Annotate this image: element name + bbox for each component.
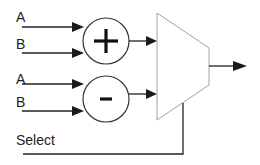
adder-input-b-wire xyxy=(22,48,84,58)
arrowhead-icon xyxy=(72,22,84,32)
arrowhead-icon xyxy=(146,36,157,46)
subtractor-block xyxy=(83,76,129,122)
adder-input-a-label: A xyxy=(16,9,26,25)
arrowhead-icon xyxy=(233,61,247,71)
adder-subtractor-mux-diagram: A B A B xyxy=(0,0,260,165)
arrowhead-icon xyxy=(72,106,84,116)
subtractor-output-wire xyxy=(129,89,157,99)
adder-input-a-wire xyxy=(22,22,84,32)
arrowhead-icon xyxy=(72,79,84,89)
subtractor-input-a-wire xyxy=(22,79,84,89)
mux-output-wire xyxy=(209,61,247,71)
adder-output-wire xyxy=(129,36,157,46)
arrowhead-icon xyxy=(146,89,157,99)
select-label: Select xyxy=(16,132,55,148)
subtractor-input-b-label: B xyxy=(16,94,25,110)
adder-block xyxy=(83,18,129,64)
arrowhead-icon xyxy=(72,48,84,58)
subtractor-input-b-wire xyxy=(22,106,84,116)
adder-input-b-label: B xyxy=(16,36,25,52)
